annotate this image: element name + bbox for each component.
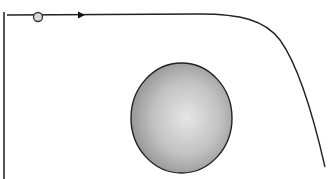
direction-arrow-icon <box>78 12 85 19</box>
start-marker-icon <box>34 13 43 22</box>
diagram-canvas <box>0 0 333 179</box>
sphere <box>131 63 232 173</box>
diagram-svg <box>0 0 333 179</box>
